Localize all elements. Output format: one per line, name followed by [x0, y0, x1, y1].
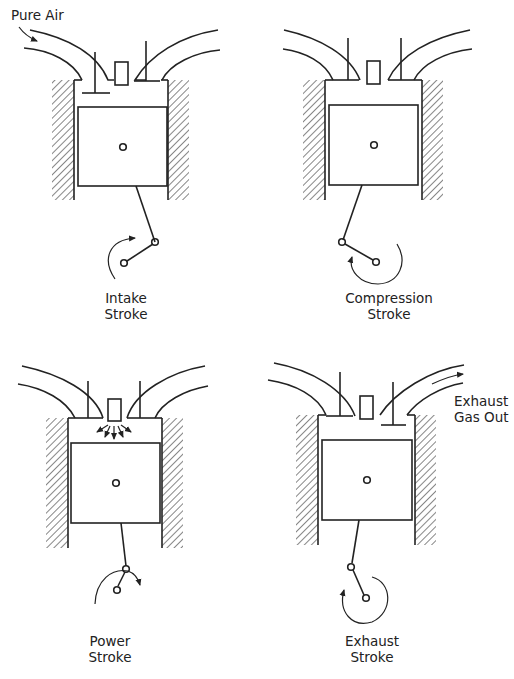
- cylinder-wall-right: [168, 80, 189, 200]
- cylinder-wall-left: [296, 415, 318, 545]
- cylinder-wall-right: [162, 418, 183, 548]
- power-stroke-label-line2: Stroke: [80, 649, 140, 665]
- exhaust-gas-out-label: Exhaust Gas Out: [454, 393, 509, 425]
- exhaust-gas-out-line2: Gas Out: [454, 409, 509, 425]
- crankshaft-center: [373, 259, 380, 266]
- spark-burst-icon: [97, 425, 131, 439]
- exhaust-gas-out-line1: Exhaust: [454, 393, 509, 409]
- spark-plug: [367, 61, 380, 84]
- compression-stroke-label-line1: Compression: [334, 290, 444, 306]
- exhaust-port: [135, 30, 218, 80]
- connecting-rod: [352, 520, 359, 563]
- crankshaft-center: [114, 587, 121, 594]
- panel-power-stroke: [18, 366, 208, 604]
- power-stroke-label: Power Stroke: [80, 633, 140, 665]
- compression-stroke-label-line2: Stroke: [334, 306, 444, 322]
- intake-port: [274, 363, 355, 416]
- cylinder-wall-left: [303, 80, 325, 200]
- piston: [71, 443, 160, 523]
- exhaust-stroke-label: Exhaust Stroke: [337, 633, 407, 665]
- crank-pin: [348, 564, 355, 571]
- intake-stroke-label: Intake Stroke: [86, 290, 166, 322]
- piston: [322, 440, 412, 520]
- intake-stroke-label-line1: Intake: [86, 290, 166, 306]
- power-stroke-label-line1: Power: [80, 633, 140, 649]
- crank-arm: [345, 244, 373, 260]
- exhaust-valve-closed: [127, 381, 155, 418]
- spark-plug: [115, 62, 128, 85]
- intake-valve-closed: [75, 381, 103, 418]
- crankshaft-center: [363, 595, 370, 602]
- crank-arm: [118, 572, 125, 586]
- cylinder-wall-right: [422, 80, 443, 200]
- cylinder-wall-left: [46, 418, 68, 548]
- piston: [329, 105, 418, 185]
- intake-valve-closed: [326, 372, 353, 416]
- panel-exhaust-stroke: [268, 363, 464, 623]
- exhaust-stroke-label-line1: Exhaust: [337, 633, 407, 649]
- panel-intake-stroke: [19, 27, 220, 279]
- intake-stroke-label-line2: Stroke: [86, 306, 166, 322]
- pure-air-label: Pure Air: [11, 7, 64, 23]
- rotation-arrow-icon: [351, 244, 402, 284]
- connecting-rod: [121, 523, 126, 566]
- intake-valve-open: [82, 52, 110, 93]
- four-stroke-engine-diagram: [0, 0, 514, 679]
- spark-plug: [360, 396, 373, 419]
- intake-port: [30, 30, 114, 80]
- exhaust-stroke-label-line2: Stroke: [337, 649, 407, 665]
- intake-port: [22, 366, 103, 418]
- crankshaft-center: [121, 260, 128, 267]
- connecting-rod: [136, 186, 155, 242]
- cylinder-wall-right: [415, 415, 436, 545]
- crank-arm: [353, 570, 364, 595]
- spark-plug: [108, 399, 121, 421]
- compression-stroke-label: Compression Stroke: [334, 290, 444, 322]
- exhaust-port: [127, 366, 205, 418]
- crank-arm: [127, 244, 153, 261]
- cylinder-wall-left: [52, 80, 74, 200]
- crank-pin: [339, 239, 346, 246]
- connecting-rod: [343, 185, 362, 240]
- piston: [78, 107, 167, 186]
- rotation-arrow-icon: [343, 577, 388, 623]
- exhaust-valve-open: [381, 382, 406, 425]
- pure-air-arrow-icon: [19, 27, 37, 41]
- panel-compression-stroke: [283, 30, 472, 284]
- exhaust-gas-arrow-icon: [432, 374, 463, 384]
